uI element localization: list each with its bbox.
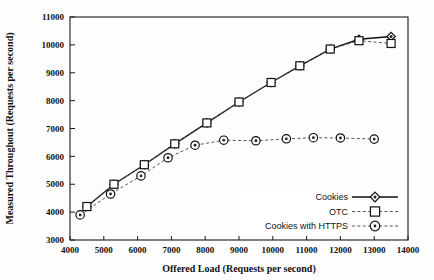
x-tick-label: 13000 <box>363 245 386 255</box>
series-line-otc <box>87 41 391 207</box>
x-tick-label: 4000 <box>61 245 80 255</box>
marker-center <box>339 137 342 140</box>
marker-square <box>110 180 118 188</box>
marker-square <box>296 62 304 70</box>
marker-square <box>387 39 395 47</box>
legend-label-cookies-with-https: Cookies with HTTPS <box>265 221 348 231</box>
series-line-cookies <box>87 37 391 207</box>
y-tick-label: 11000 <box>42 12 65 22</box>
marker-square <box>83 203 91 211</box>
marker-center <box>255 139 258 142</box>
x-tick-label: 11000 <box>296 245 319 255</box>
marker-center <box>312 136 315 139</box>
y-tick-label: 4000 <box>46 207 65 217</box>
x-axis-title: Offered Load (Requests per second) <box>162 263 316 275</box>
marker-square <box>235 98 243 106</box>
y-axis-title: Measured Throughout (Requests per second… <box>4 32 16 224</box>
y-tick-label: 9000 <box>46 68 65 78</box>
marker-square <box>171 140 179 148</box>
marker-center <box>140 174 143 177</box>
marker-center <box>222 139 225 142</box>
x-tick-label: 12000 <box>329 245 352 255</box>
x-tick-label: 8000 <box>196 245 215 255</box>
marker-center <box>167 156 170 159</box>
x-tick-label: 10000 <box>262 245 285 255</box>
x-tick-label: 5000 <box>95 245 114 255</box>
marker-square <box>370 207 379 216</box>
marker-center <box>374 196 377 199</box>
y-tick-label: 8000 <box>46 96 65 106</box>
marker-center <box>374 225 377 228</box>
y-tick-label: 7000 <box>46 124 65 134</box>
marker-center <box>79 214 82 217</box>
legend-label-cookies: Cookies <box>315 192 348 202</box>
marker-center <box>194 144 197 147</box>
marker-square <box>267 79 275 87</box>
x-tick-label: 9000 <box>230 245 249 255</box>
x-tick-label: 7000 <box>162 245 181 255</box>
marker-square <box>326 45 334 53</box>
marker-center <box>373 138 376 141</box>
y-tick-label: 5000 <box>46 179 65 189</box>
x-tick-label: 6000 <box>129 245 148 255</box>
marker-center <box>285 137 288 140</box>
marker-square <box>203 119 211 127</box>
marker-center <box>109 193 112 196</box>
x-tick-label: 14000 <box>397 245 420 255</box>
y-tick-label: 10000 <box>42 40 65 50</box>
chart-figure: 4000500060007000800090001000011000120001… <box>0 0 434 280</box>
y-tick-label: 6000 <box>46 152 65 162</box>
y-tick-label: 3000 <box>46 235 65 245</box>
throughput-line-chart: 4000500060007000800090001000011000120001… <box>0 0 434 280</box>
legend-label-otc: OTC <box>329 207 348 217</box>
marker-center <box>390 35 393 38</box>
marker-square <box>355 37 363 45</box>
marker-square <box>140 161 148 169</box>
